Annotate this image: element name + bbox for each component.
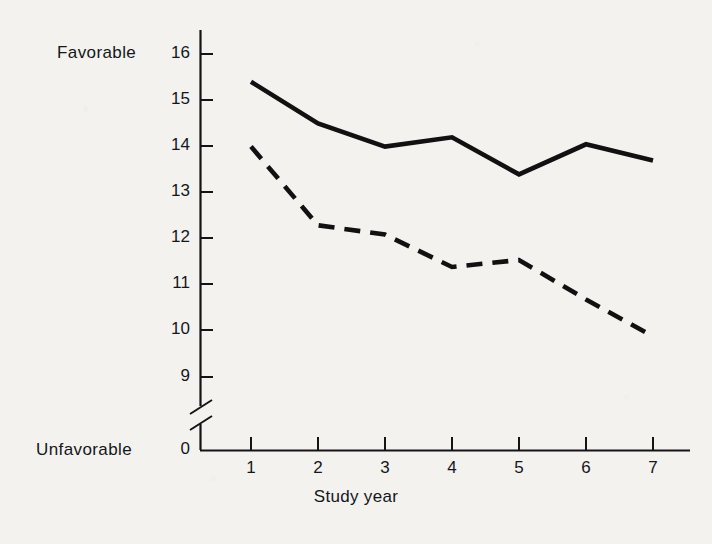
y-tick-label-11: 11 (172, 273, 190, 293)
y-tick-label-12: 12 (171, 227, 190, 247)
y-axis-favorable-label: Favorable (57, 43, 136, 63)
x-tick-label-6: 6 (566, 458, 606, 478)
y-axis-unfavorable-label: Unfavorable (36, 440, 132, 460)
x-tick-label-7: 7 (633, 458, 673, 478)
x-tick-marks (251, 437, 653, 450)
y-tick-label-16: 16 (171, 43, 190, 63)
y-tick-label-14: 14 (171, 135, 190, 155)
chart-figure: Favorable Unfavorable 0910111213141516 1… (0, 0, 712, 544)
x-tick-label-4: 4 (432, 458, 472, 478)
x-tick-label-2: 2 (298, 458, 338, 478)
y-tick-label-10: 10 (171, 319, 190, 339)
x-tick-label-3: 3 (365, 458, 405, 478)
x-tick-label-1: 1 (231, 458, 271, 478)
y-tick-label-9: 9 (181, 366, 190, 386)
series-dashed-line (251, 147, 653, 337)
y-tick-marks (200, 54, 213, 377)
x-tick-label-5: 5 (499, 458, 539, 478)
series-solid-line (251, 82, 653, 175)
y-tick-label-0: 0 (181, 439, 190, 459)
y-tick-label-13: 13 (171, 181, 190, 201)
y-tick-label-15: 15 (171, 89, 190, 109)
x-axis-title: Study year (0, 487, 712, 507)
